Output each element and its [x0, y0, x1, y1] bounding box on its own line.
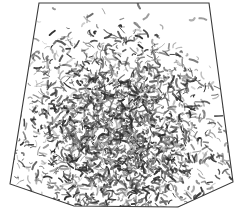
- texture-mark: [169, 44, 170, 49]
- texture-mark: [97, 189, 98, 195]
- texture-mark: [80, 188, 88, 189]
- texture-mark: [85, 79, 86, 82]
- texture-mark: [45, 125, 46, 128]
- texture-mark: [34, 136, 37, 137]
- texture-mark: [137, 48, 138, 50]
- texture-mark: [100, 53, 101, 59]
- texture-mark: [157, 170, 160, 171]
- texture-mark: [35, 111, 37, 112]
- texture-mark: [100, 72, 103, 73]
- texture-mark: [115, 41, 120, 42]
- texture-mark: [70, 173, 71, 177]
- texture-mark: [180, 177, 181, 181]
- texture-mark: [174, 101, 175, 104]
- texture-mark: [170, 127, 176, 128]
- texture-mark: [172, 135, 173, 140]
- texture-mark: [188, 187, 189, 190]
- texture-mark: [140, 155, 142, 156]
- texture-mark: [61, 169, 68, 170]
- texture-mark: [80, 109, 88, 110]
- texture-mark: [49, 104, 54, 105]
- texture-mark: [53, 87, 61, 88]
- texture-mark: [122, 109, 123, 114]
- texture-mark: [121, 82, 128, 83]
- texture-mark: [41, 125, 42, 128]
- texture-mark: [194, 127, 196, 128]
- texture-mark: [131, 136, 132, 139]
- texture-mark: [152, 40, 153, 44]
- texture-mark: [182, 78, 187, 79]
- texture-mark: [120, 181, 122, 182]
- texture-mark: [222, 154, 223, 161]
- texture-mark: [61, 65, 65, 66]
- texture-mark: [159, 119, 160, 122]
- texture-mark: [131, 81, 134, 82]
- texture-mark: [129, 171, 134, 172]
- texture-mark: [150, 81, 156, 82]
- texture-mark: [144, 76, 145, 79]
- texture-mark: [94, 32, 96, 34]
- texture-mark: [63, 184, 69, 185]
- texture-mark: [184, 68, 185, 71]
- texture-mark: [119, 62, 120, 66]
- texture-mark: [149, 202, 151, 203]
- texture-mark: [136, 199, 137, 205]
- texture-mark: [111, 112, 112, 115]
- texture-mark: [47, 92, 48, 94]
- texture-mark: [182, 178, 183, 183]
- texture-mark: [88, 89, 90, 90]
- texture-mark: [201, 139, 202, 146]
- texture-mark: [127, 157, 128, 162]
- texture-mark: [112, 190, 113, 196]
- texture-mark: [127, 163, 130, 164]
- texture-mark: [186, 54, 187, 56]
- texture-mark: [181, 154, 182, 160]
- texture-mark: [185, 133, 186, 140]
- texture-mark: [116, 82, 117, 84]
- scanned-figure-image: [0, 0, 244, 212]
- texture-mark: [137, 156, 138, 163]
- texture-mark: [203, 142, 208, 143]
- texture-mark: [165, 124, 166, 126]
- texture-mark: [208, 123, 212, 124]
- texture-mark: [71, 135, 74, 136]
- texture-mark: [147, 115, 148, 121]
- texture-mark: [102, 85, 105, 86]
- texture-mark: [53, 8, 55, 9]
- texture-mark: [109, 116, 111, 117]
- texture-mark: [76, 165, 79, 166]
- texture-mark: [190, 153, 191, 156]
- texture-mark: [51, 108, 56, 109]
- texture-mark: [180, 76, 186, 77]
- texture-mark: [95, 149, 101, 150]
- texture-mark: [56, 89, 57, 96]
- texture-mark: [61, 186, 63, 187]
- texture-mark: [162, 155, 163, 161]
- texture-mark: [130, 130, 131, 136]
- texture-mark: [128, 169, 129, 174]
- texture-mark: [171, 71, 172, 76]
- texture-mark: [67, 76, 71, 77]
- texture-mark: [87, 162, 88, 164]
- texture-mark: [25, 141, 28, 142]
- texture-mark: [103, 134, 109, 135]
- texture-mark: [101, 188, 102, 192]
- texture-mark: [54, 54, 55, 60]
- texture-mark: [157, 91, 158, 93]
- figure-container: Scattered fibrous texture within trapezo…: [0, 0, 244, 212]
- texture-mark: [80, 88, 86, 89]
- texture-mark: [107, 78, 108, 81]
- texture-mark: [224, 160, 229, 161]
- texture-mark: [168, 87, 169, 93]
- texture-mark: [180, 163, 181, 166]
- texture-mark: [132, 102, 134, 103]
- texture-mark: [78, 199, 79, 202]
- texture-mark: [86, 123, 87, 125]
- texture-mark: [152, 160, 154, 161]
